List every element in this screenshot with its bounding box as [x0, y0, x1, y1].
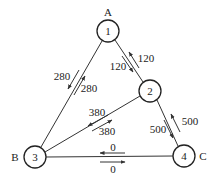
flow-label-2-3-upper: 380	[89, 106, 106, 118]
node-2: 2	[139, 80, 161, 102]
node-3: 3	[24, 146, 46, 168]
flow-label-3-4-lower: 0	[110, 163, 116, 175]
flow-label-2-3-lower: 380	[99, 125, 116, 137]
site-label-a: A	[104, 6, 112, 18]
flow-arrow-4-to-2	[171, 114, 180, 132]
node-2-label: 2	[147, 85, 153, 97]
node-3-label: 3	[32, 151, 38, 163]
flow-label-2-4-right: 500	[182, 115, 199, 127]
site-label-b: B	[11, 151, 18, 163]
edge-3-4	[46, 156, 173, 157]
flow-label-1-3-left: 280	[54, 70, 71, 82]
node-1-label: 1	[105, 25, 111, 37]
node-4: 4	[173, 145, 195, 167]
site-label-c: C	[199, 150, 206, 162]
flow-label-3-4-upper: 0	[110, 141, 116, 153]
flow-label-1-2-left: 120	[110, 60, 127, 72]
network-diagram: 280 280 120 120 380 380 500 500 0 0 1 2 …	[0, 0, 217, 181]
node-4-label: 4	[181, 150, 187, 162]
flow-label-2-4-left: 500	[150, 123, 167, 135]
flow-label-1-2-right: 120	[138, 52, 155, 64]
node-1: 1	[97, 20, 119, 42]
flow-label-1-3-right: 280	[81, 82, 98, 94]
